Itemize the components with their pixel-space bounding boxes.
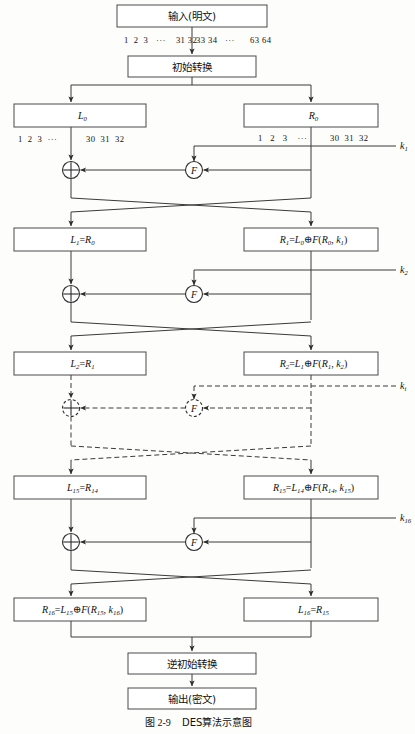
r0-bits-right: 30 31 32 xyxy=(330,133,368,143)
input-bits-left: 1 2 3 ··· 31 32 xyxy=(124,35,197,45)
des-diagram-canvas: 输入(明文) 1 2 3 ··· 31 32 33 34 ··· 63 64 初… xyxy=(0,0,415,734)
r0-bits-left: 1 2 3 ··· xyxy=(258,133,307,143)
figure-caption-label: 图 2-9 xyxy=(145,717,171,728)
input-box-label: 输入(明文) xyxy=(168,10,216,22)
l0-bits-right: 30 31 32 xyxy=(86,134,124,144)
fi-label: F xyxy=(190,403,198,414)
f1-label: F xyxy=(190,165,198,176)
des-diagram-figure: 输入(明文) 1 2 3 ··· 31 32 33 34 ··· 63 64 初… xyxy=(0,0,415,734)
output-box-label: 输出(密文) xyxy=(168,693,216,705)
input-bits-right: 33 34 ··· 63 64 xyxy=(196,35,272,45)
k1-label: k1 xyxy=(400,140,408,152)
figure-caption-text: DES算法示意图 xyxy=(182,716,252,728)
f16-label: F xyxy=(190,537,198,548)
inverse-permutation-label: 逆初始转换 xyxy=(167,658,218,670)
k2-label: k2 xyxy=(400,264,408,276)
k16-label: k16 xyxy=(400,512,412,524)
f2-label: F xyxy=(190,289,198,300)
ki-label: ki xyxy=(400,380,406,392)
initial-permutation-label: 初始转换 xyxy=(172,61,213,73)
l0-bits-left: 1 2 3 ··· xyxy=(18,134,57,144)
